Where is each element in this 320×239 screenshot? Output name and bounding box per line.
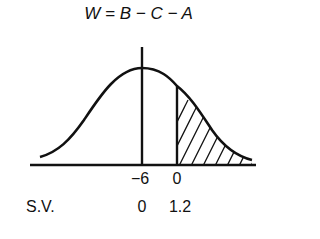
tick-label-zero: 0 xyxy=(173,170,182,188)
sv-value-mean: 0 xyxy=(138,198,147,216)
tick-label-mean: −6 xyxy=(131,170,149,188)
sv-value-cutoff: 1.2 xyxy=(169,198,191,216)
shaded-tail-region xyxy=(148,100,277,180)
sv-row-label: S.V. xyxy=(26,198,55,216)
bell-curve xyxy=(40,68,252,160)
